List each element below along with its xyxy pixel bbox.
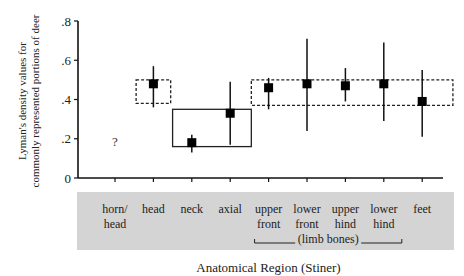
range-box-solid-1 xyxy=(173,109,252,146)
y-tick-label: .2 xyxy=(61,131,71,146)
category-label-line2: head xyxy=(104,217,127,231)
category-label-line2: hind xyxy=(335,217,356,231)
data-point-marker xyxy=(341,81,350,90)
missing-data-annotation: ? xyxy=(112,134,118,149)
y-axis-title-line: Lyman's density values for xyxy=(16,42,28,160)
group-bracket-label: (limb bones) xyxy=(298,232,359,246)
category-label: head xyxy=(142,202,165,216)
category-label: lower xyxy=(370,202,397,216)
y-axis-title-line: commonly represented portions of deer xyxy=(29,14,41,187)
data-point-marker xyxy=(379,79,388,88)
category-label-line2: front xyxy=(257,217,281,231)
data-point-marker xyxy=(187,138,196,147)
data-point-marker xyxy=(226,109,235,118)
y-tick-label: .8 xyxy=(61,14,71,29)
y-tick-label: .4 xyxy=(61,92,71,107)
category-label: upper xyxy=(332,202,359,216)
category-label-line2: hind xyxy=(373,217,394,231)
data-point-marker xyxy=(303,79,312,88)
data-point-marker xyxy=(149,79,158,88)
category-label: horn/ xyxy=(102,202,128,216)
chart: 0.2.4.6.8horn/headheadneckaxialupperfron… xyxy=(0,0,464,276)
category-label: upper xyxy=(255,202,282,216)
category-label: feet xyxy=(413,202,432,216)
data-point-marker xyxy=(418,97,427,106)
category-label-line2: front xyxy=(295,217,319,231)
category-label: axial xyxy=(219,202,243,216)
category-label: neck xyxy=(180,202,203,216)
y-tick-label: .6 xyxy=(61,53,71,68)
y-axis-title: Lyman's density values forcommonly repre… xyxy=(16,14,41,187)
data-point-marker xyxy=(264,83,273,92)
category-label: lower xyxy=(293,202,320,216)
x-axis-title: Anatomical Region (Stiner) xyxy=(196,260,340,275)
y-tick-label: 0 xyxy=(65,171,72,186)
